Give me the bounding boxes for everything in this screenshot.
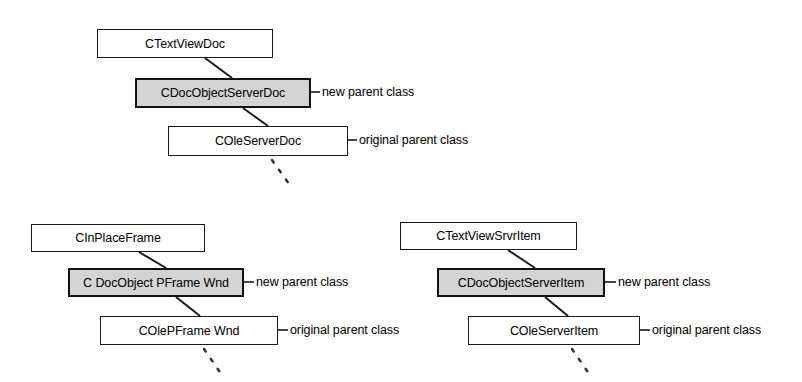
class-box-label: C DocObject PFrame Wnd	[83, 276, 229, 290]
diagram-canvas: CTextViewDoc CDocObjectServerDoc COleSer…	[0, 0, 802, 382]
class-box-coleserveritem: COleServerItem	[468, 316, 640, 345]
class-box-ctextviewsrvritem: CTextViewSrvrItem	[400, 222, 577, 250]
class-box-cinplaceframe: CInPlaceFrame	[31, 224, 205, 252]
class-box-cdocobjectserverdoc: CDocObjectServerDoc	[135, 78, 311, 108]
class-box-label: CInPlaceFrame	[75, 231, 161, 245]
annotation-new-parent-class-frame: new parent class	[256, 275, 348, 289]
class-box-label: CTextViewSrvrItem	[436, 229, 540, 243]
class-box-label: COleServerItem	[510, 324, 598, 338]
class-box-coleserverdoc: COleServerDoc	[168, 126, 348, 156]
connector-ctextviewdoc-to-cdocobjectserverdoc	[205, 58, 232, 78]
annotation-original-parent-class-doc: original parent class	[359, 133, 468, 147]
class-box-label: CDocObjectServerItem	[458, 276, 585, 290]
annotation-original-parent-class-item: original parent class	[652, 323, 761, 337]
connector-cdocobjectserveritem-to-coleserveritem	[545, 297, 568, 316]
dashed-tail-doc	[272, 160, 292, 188]
annotation-original-parent-class-frame: original parent class	[290, 323, 399, 337]
connector-ctextviewsrvritem-to-cdocobjectserveritem	[508, 250, 535, 268]
class-box-label: COlePFrame Wnd	[139, 324, 240, 338]
connector-cinplaceframe-to-cdocobjectpframewnd	[139, 252, 166, 268]
annotation-new-parent-class-doc: new parent class	[322, 85, 414, 99]
connector-cdocobjectserverdoc-to-coleserverdoc	[243, 108, 268, 126]
class-box-cdocobjectserveritem: CDocObjectServerItem	[437, 268, 605, 297]
connector-cdocobjectpframewnd-to-colepframewnd	[176, 297, 200, 316]
class-box-colepframewnd: COlePFrame Wnd	[100, 316, 278, 345]
annotation-new-parent-class-item: new parent class	[618, 275, 710, 289]
dashed-tail-item	[572, 349, 592, 378]
dashed-tail-frame	[204, 349, 224, 378]
class-box-cdocobjectpframewnd: C DocObject PFrame Wnd	[68, 268, 244, 297]
class-box-ctextviewdoc: CTextViewDoc	[97, 29, 273, 58]
class-box-label: COleServerDoc	[215, 134, 301, 148]
class-box-label: CDocObjectServerDoc	[161, 86, 286, 100]
class-box-label: CTextViewDoc	[145, 37, 225, 51]
